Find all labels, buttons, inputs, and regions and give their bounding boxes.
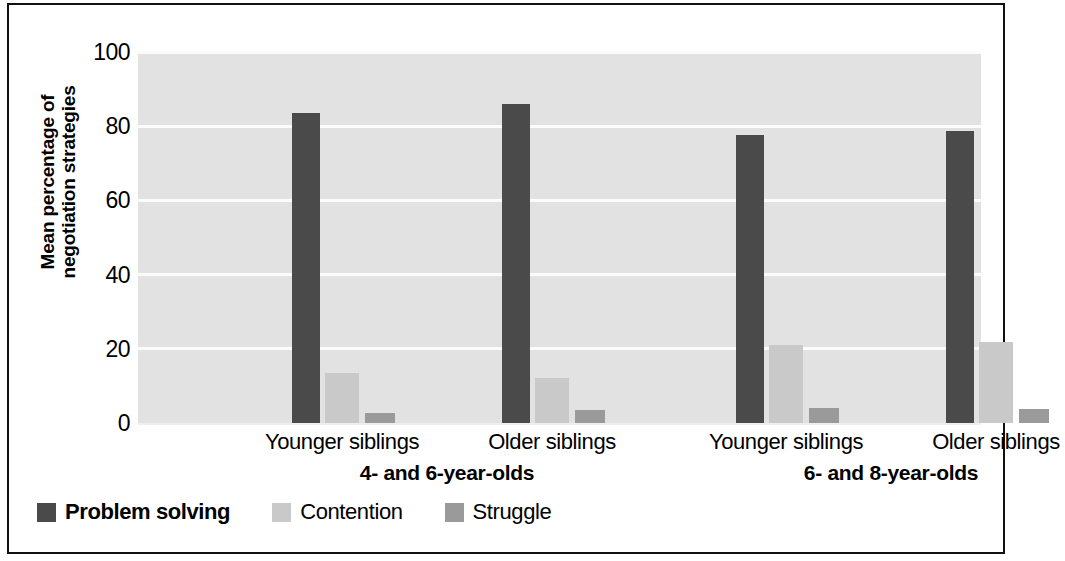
bar bbox=[325, 373, 359, 423]
chart-figure: Mean percentage of negotiation strategie… bbox=[7, 3, 1005, 554]
legend-label: Struggle bbox=[473, 499, 552, 525]
bar bbox=[365, 413, 395, 423]
y-axis-label-line1: Mean percentage of bbox=[37, 95, 58, 270]
bar bbox=[946, 131, 974, 423]
y-tick-label: 40 bbox=[62, 261, 130, 288]
y-tick-label: 20 bbox=[62, 335, 130, 362]
x-group-label: 4- and 6-year-olds bbox=[287, 461, 607, 485]
x-axis-baseline bbox=[138, 423, 981, 425]
bar bbox=[575, 410, 605, 423]
gridline bbox=[138, 125, 981, 128]
bar bbox=[979, 342, 1013, 423]
legend-swatch-icon bbox=[37, 503, 56, 522]
x-category-label: Younger siblings bbox=[232, 429, 452, 455]
chart-legend: Problem solvingContentionStruggle bbox=[37, 499, 593, 525]
gridline bbox=[138, 273, 981, 276]
legend-swatch-icon bbox=[445, 503, 464, 522]
y-tick-label: 100 bbox=[62, 39, 130, 66]
x-category-label: Older siblings bbox=[442, 429, 662, 455]
y-tick-label: 80 bbox=[62, 113, 130, 140]
bar bbox=[502, 104, 530, 423]
bar bbox=[736, 135, 764, 423]
x-group-label: 6- and 8-year-olds bbox=[731, 461, 1051, 485]
bar bbox=[1019, 409, 1049, 423]
gridline bbox=[138, 199, 981, 202]
y-axis-tick-labels: 100806040200 bbox=[56, 5, 130, 556]
legend-label: Contention bbox=[300, 499, 402, 525]
gridline bbox=[138, 347, 981, 350]
gridline bbox=[138, 51, 981, 54]
y-tick-label: 60 bbox=[62, 187, 130, 214]
legend-label: Problem solving bbox=[65, 499, 230, 525]
bar bbox=[292, 113, 320, 423]
x-category-label: Younger siblings bbox=[676, 429, 896, 455]
bar bbox=[809, 408, 839, 423]
legend-item: Problem solving bbox=[37, 499, 230, 525]
legend-item: Contention bbox=[272, 499, 402, 525]
y-tick-label: 0 bbox=[62, 410, 130, 437]
bar bbox=[769, 345, 803, 423]
x-category-label: Older siblings bbox=[886, 429, 1065, 455]
legend-item: Struggle bbox=[445, 499, 552, 525]
legend-swatch-icon bbox=[272, 503, 291, 522]
bar bbox=[535, 378, 569, 423]
plot-area bbox=[138, 52, 981, 423]
